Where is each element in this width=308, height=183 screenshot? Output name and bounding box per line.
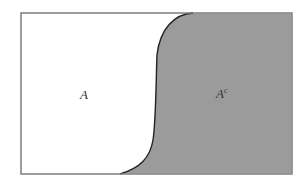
venn-diagram: A Ac (0, 0, 308, 183)
region-a-label: A (79, 87, 88, 102)
